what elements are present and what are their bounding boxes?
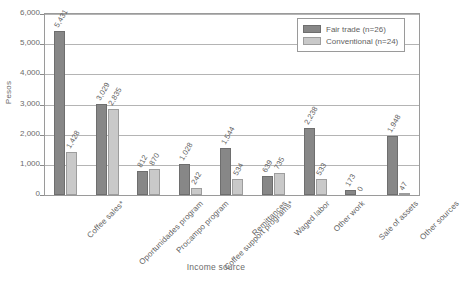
bar bbox=[399, 193, 410, 195]
bar-group: 1,028242 bbox=[170, 14, 212, 195]
bar bbox=[304, 128, 315, 196]
bar-value-label: 533 bbox=[314, 161, 328, 177]
y-axis-tick-mark bbox=[40, 195, 44, 196]
legend-color-swatch bbox=[303, 37, 321, 45]
y-axis-tick-mark bbox=[40, 14, 44, 15]
y-axis-tick-label: 3,000 bbox=[4, 99, 40, 108]
bar-value-label: 1,544 bbox=[219, 125, 236, 146]
bar-value-label: 1,428 bbox=[65, 129, 82, 150]
bar-group: 1,544534 bbox=[211, 14, 253, 195]
chart-legend: Fair trade (n=26)Conventional (n=24) bbox=[297, 18, 405, 52]
bar bbox=[316, 179, 327, 195]
legend-color-swatch bbox=[303, 25, 321, 33]
bar-value-label: 735 bbox=[272, 155, 286, 171]
x-axis-category-label: Other sources bbox=[418, 199, 461, 242]
bar-value-label: 870 bbox=[148, 151, 162, 167]
bar-value-label: 1,948 bbox=[385, 113, 402, 134]
bar bbox=[274, 173, 285, 195]
bar bbox=[137, 171, 148, 195]
caption-remnant bbox=[0, 286, 432, 295]
x-axis-category-label: Remittances bbox=[250, 199, 289, 238]
bar bbox=[96, 104, 107, 195]
bar bbox=[387, 136, 398, 195]
bar bbox=[232, 179, 243, 195]
bar bbox=[54, 31, 65, 195]
legend-label: Conventional (n=24) bbox=[326, 37, 398, 46]
bar bbox=[179, 164, 190, 195]
bar bbox=[345, 190, 356, 195]
y-axis-tick-label: 6,000 bbox=[4, 8, 40, 17]
y-axis-tick-mark bbox=[40, 165, 44, 166]
y-axis-tick-mark bbox=[40, 135, 44, 136]
y-axis-tick-label: 4,000 bbox=[4, 68, 40, 77]
bar-group: 5,4311,428 bbox=[45, 14, 87, 195]
bar-value-label: 534 bbox=[231, 161, 245, 177]
bar-group: 639735 bbox=[253, 14, 295, 195]
x-axis-category-label: Sale of assets bbox=[377, 199, 420, 242]
bar-value-label: 0 bbox=[355, 185, 365, 193]
bar-group: 812870 bbox=[128, 14, 170, 195]
x-axis-category-label: Other work bbox=[332, 199, 367, 234]
y-axis-tick-label: 2,000 bbox=[4, 129, 40, 138]
bar-group: 3,0292,835 bbox=[87, 14, 129, 195]
bar bbox=[191, 188, 202, 195]
y-axis-tick-mark bbox=[40, 105, 44, 106]
legend-item: Fair trade (n=26) bbox=[303, 23, 398, 35]
bar bbox=[66, 152, 77, 195]
bar-value-label: 1,028 bbox=[177, 141, 194, 162]
legend-item: Conventional (n=24) bbox=[303, 35, 398, 47]
y-axis-tick-label: 1,000 bbox=[4, 159, 40, 168]
x-axis-category-label: Waged labor bbox=[292, 199, 331, 238]
x-axis-category-label: Coffee support programs* bbox=[223, 199, 296, 272]
y-axis-tick-mark bbox=[40, 44, 44, 45]
bar-value-label: 47 bbox=[397, 180, 409, 192]
bar-value-label: 2,238 bbox=[302, 104, 319, 125]
bar bbox=[108, 109, 119, 195]
bar-value-label: 5,431 bbox=[53, 8, 70, 29]
y-axis-tick-label: 0 bbox=[4, 189, 40, 198]
y-axis-tick-mark bbox=[40, 74, 44, 75]
bar bbox=[262, 176, 273, 195]
y-axis-tick-label: 5,000 bbox=[4, 38, 40, 47]
x-axis-category-label: Coffee sales* bbox=[85, 199, 126, 240]
bar-value-label: 242 bbox=[189, 170, 203, 186]
x-axis-category-labels: Coffee sales*Oportunidades programProcam… bbox=[45, 199, 419, 269]
legend-label: Fair trade (n=26) bbox=[326, 25, 386, 34]
x-axis-title: Income source bbox=[0, 262, 432, 272]
bar bbox=[149, 169, 160, 195]
bar bbox=[220, 148, 231, 195]
